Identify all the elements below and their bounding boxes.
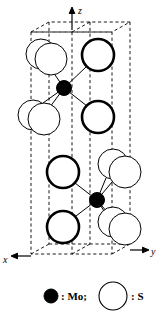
unit-cell-bottom-left-depth-edge [31,244,49,254]
sulfur-atom-bottom-right-front [109,213,141,245]
legend-s-label: : S [131,290,144,302]
sulfur-atom-lower-middle-right-front [109,156,141,188]
z-axis-label: z [77,5,82,16]
x-axis-arrowhead [11,253,18,259]
y-axis-label: y [150,246,156,257]
y-axis-arrowhead [143,247,150,253]
unit-cell-internal-bottom-divider [72,244,90,254]
molybdenum-atom-lower [90,193,105,208]
crystal-structure-figure: z x y : Mo; : S [0,0,162,321]
unit-cell-bottom-right-depth-edge [112,244,130,254]
legend-mo-filled-circle-icon [44,289,58,303]
crystal-structure-diagram: z x y : Mo; : S [0,0,162,321]
legend: : Mo; : S [44,282,144,310]
sulfur-atom-upper-right [82,39,114,71]
legend-s-open-circle-icon [99,282,127,310]
legend-mo-label: : Mo; [61,290,87,302]
unit-cell-internal-top-divider [72,22,90,32]
sulfur-atom-middle-left-front [28,103,60,135]
sulfur-atom-lower-middle-left [47,156,79,188]
x-axis-label: x [2,254,8,265]
molybdenum-atom-upper [57,81,72,96]
z-axis-arrowhead [69,7,75,14]
sulfur-atom-bottom-left [47,211,79,243]
sulfur-atom-upper-left-front [35,43,67,75]
sulfur-atom-middle-right [82,101,114,133]
unit-cell-top-face [31,22,130,32]
